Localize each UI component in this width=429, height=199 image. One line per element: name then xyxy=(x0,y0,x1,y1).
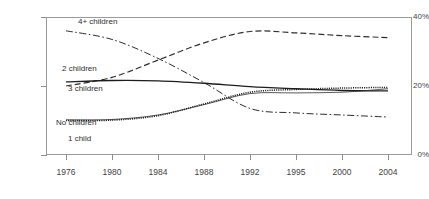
series-label-1-child: 1 child xyxy=(68,134,91,143)
series-line-4-plus-children xyxy=(66,31,388,117)
line-chart: 40% 20% 0% 1976 1980 1984 1988 1992 1995… xyxy=(0,0,429,199)
series-label-no-children: No children xyxy=(56,118,96,127)
series-label-3-children: 3 children xyxy=(68,84,103,93)
series-line-2-children xyxy=(66,31,388,86)
series-label-2-children: 2 children xyxy=(62,64,97,73)
series-line-3-children xyxy=(66,80,388,90)
series-label-4-plus-children: 4+ children xyxy=(78,17,117,26)
series-lines xyxy=(0,0,429,199)
